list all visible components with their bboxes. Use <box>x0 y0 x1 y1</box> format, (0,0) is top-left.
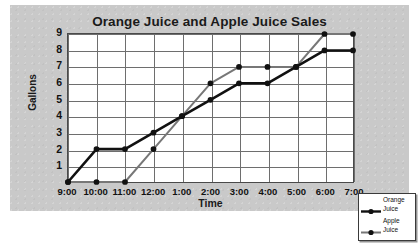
data-point <box>350 31 356 37</box>
legend-label-line2: Juice <box>383 205 417 214</box>
legend-symbol-apple-juice <box>361 223 381 232</box>
data-point <box>236 64 242 70</box>
data-point <box>94 179 100 185</box>
series-line-orange-juice <box>68 50 353 182</box>
data-point <box>151 146 157 152</box>
data-point <box>208 80 214 86</box>
y-axis-tick-label: 6 <box>40 76 62 88</box>
y-axis-title: Gallons <box>27 60 38 126</box>
legend-symbol-orange-juice <box>361 202 381 211</box>
legend-label-line1: Orange <box>383 196 417 205</box>
y-axis-tick-label: 9 <box>40 26 62 38</box>
y-axis-tick-label: 3 <box>40 126 62 138</box>
data-point <box>122 179 128 185</box>
data-point <box>322 31 328 37</box>
y-axis-tick-label: 4 <box>40 109 62 121</box>
data-point <box>151 130 157 136</box>
data-point <box>94 146 100 152</box>
legend-label-line1: Apple <box>383 217 417 226</box>
data-point <box>265 64 271 70</box>
y-axis-tick-label: 8 <box>40 43 62 55</box>
y-axis-tick-label: 1 <box>40 159 62 171</box>
chart-canvas: Orange Juice and Apple Juice Sales Gallo… <box>10 5 409 211</box>
gridline-vertical <box>354 34 355 182</box>
series-line-apple-juice <box>68 34 353 182</box>
legend-item: AppleJuice <box>361 218 415 238</box>
data-point <box>265 80 271 86</box>
legend-label-line2: Juice <box>383 226 417 235</box>
data-point <box>208 97 214 103</box>
legend-label: OrangeJuice <box>383 196 417 213</box>
data-point <box>293 64 299 70</box>
chart-legend: OrangeJuiceAppleJuice <box>358 193 416 241</box>
data-point <box>122 146 128 152</box>
series-lines <box>68 34 353 182</box>
legend-label: AppleJuice <box>383 217 417 234</box>
chart-title: Orange Juice and Apple Juice Sales <box>10 14 409 29</box>
data-point <box>350 48 356 54</box>
y-axis-tick-label: 5 <box>40 93 62 105</box>
y-axis-tick-label: 7 <box>40 59 62 71</box>
plot-area <box>67 33 354 183</box>
data-point <box>322 48 328 54</box>
y-axis-tick-label: 2 <box>40 143 62 155</box>
x-axis-title: Time <box>67 197 354 209</box>
legend-item: OrangeJuice <box>361 197 415 217</box>
data-point <box>65 179 71 185</box>
chart-screenshot: Orange Juice and Apple Juice Sales Gallo… <box>0 0 419 246</box>
data-point <box>179 113 185 119</box>
data-point <box>236 80 242 86</box>
